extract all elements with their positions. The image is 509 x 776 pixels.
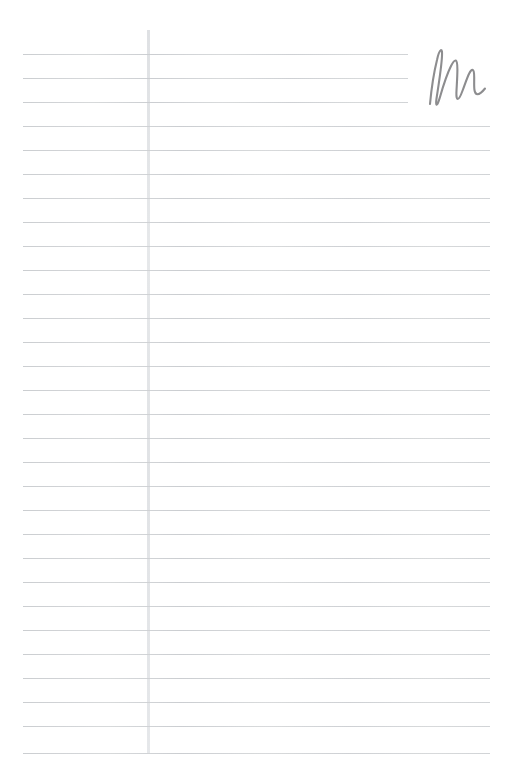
ruled-line bbox=[23, 294, 490, 295]
ruled-line bbox=[23, 486, 490, 487]
ruled-line bbox=[23, 582, 490, 583]
ruled-line bbox=[23, 462, 490, 463]
ruled-line bbox=[23, 270, 490, 271]
ruled-line bbox=[23, 678, 490, 679]
ruled-line bbox=[23, 558, 490, 559]
margin-rule-vertical bbox=[147, 30, 150, 753]
ruled-line bbox=[23, 366, 490, 367]
handwritten-m-mark bbox=[424, 46, 490, 108]
handwritten-m-icon bbox=[424, 46, 490, 108]
ruled-line bbox=[23, 390, 490, 391]
ruled-line bbox=[23, 126, 490, 127]
ruled-line bbox=[23, 630, 490, 631]
ruled-line bbox=[23, 54, 408, 55]
ruled-line bbox=[23, 534, 490, 535]
ruled-line bbox=[23, 510, 490, 511]
ruled-line bbox=[23, 78, 408, 79]
ruled-line bbox=[23, 150, 490, 151]
ruled-line bbox=[23, 198, 490, 199]
ruled-line bbox=[23, 702, 490, 703]
ruled-line bbox=[23, 246, 490, 247]
ruled-line bbox=[23, 414, 490, 415]
ruled-line bbox=[23, 174, 490, 175]
ruled-line bbox=[23, 102, 408, 103]
ruled-line bbox=[23, 753, 490, 754]
ruled-line bbox=[23, 342, 490, 343]
ruled-line bbox=[23, 222, 490, 223]
ruled-line bbox=[23, 726, 490, 727]
ruled-line bbox=[23, 654, 490, 655]
handwritten-m-stroke bbox=[430, 50, 485, 105]
ruled-line bbox=[23, 438, 490, 439]
ruled-line bbox=[23, 606, 490, 607]
notepaper-page bbox=[0, 0, 509, 776]
ruled-line bbox=[23, 318, 490, 319]
